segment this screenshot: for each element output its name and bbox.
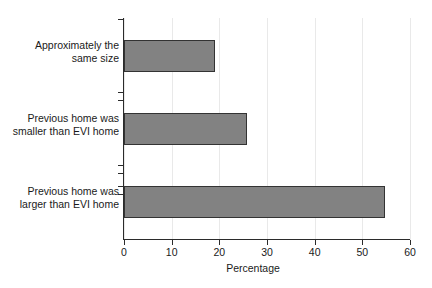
y-axis-label-line-2: smaller than EVI home: [13, 125, 119, 138]
bar-approximately-same-size: [124, 40, 215, 72]
x-axis-tick-50: [362, 240, 363, 245]
x-axis-tick-40: [315, 240, 316, 245]
y-axis-tick-2: [118, 100, 123, 101]
x-axis-tick-label-20: 20: [213, 246, 225, 258]
bar-chart-figure: 0 10 20 30 40 50 60 Approximately the sa…: [0, 0, 432, 288]
y-axis-label-line-2: same size: [35, 52, 119, 65]
x-axis-title-text: Percentage: [226, 262, 280, 274]
x-axis-tick-label-40: 40: [309, 246, 321, 258]
y-axis-label-line-1: Previous home was: [20, 185, 119, 198]
bar-previous-home-smaller: [124, 113, 247, 145]
y-axis-label-approximately-same-size: Approximately the same size: [35, 39, 119, 64]
y-axis-label-line-1: Previous home was: [13, 112, 119, 125]
y-axis-tick-1: [118, 92, 123, 93]
x-axis-tick-label-0: 0: [121, 246, 127, 258]
x-axis-tick-label-50: 50: [356, 246, 368, 258]
y-axis-tick-top: [118, 19, 123, 20]
y-axis-label-line-2: larger than EVI home: [20, 198, 119, 211]
x-axis-tick-60: [410, 240, 411, 245]
x-axis-tick-0: [124, 240, 125, 245]
y-axis-label-previous-home-larger: Previous home was larger than EVI home: [20, 185, 119, 210]
gridline-60: [410, 18, 411, 240]
x-axis-tick-20: [219, 240, 220, 245]
plot-area: [124, 18, 410, 240]
y-axis-spine: [123, 18, 124, 240]
x-axis-tick-label-10: 10: [166, 246, 178, 258]
x-axis-title: Percentage: [0, 262, 432, 274]
x-axis-tick-10: [172, 240, 173, 245]
y-axis-tick-4: [118, 173, 123, 174]
bar-previous-home-larger: [124, 186, 385, 218]
y-axis-label-previous-home-smaller: Previous home was smaller than EVI home: [13, 112, 119, 137]
x-axis-tick-label-30: 30: [261, 246, 273, 258]
y-axis-label-line-1: Approximately the: [35, 39, 119, 52]
y-axis-tick-3: [118, 165, 123, 166]
x-axis-tick-label-60: 60: [404, 246, 416, 258]
x-axis-tick-30: [267, 240, 268, 245]
